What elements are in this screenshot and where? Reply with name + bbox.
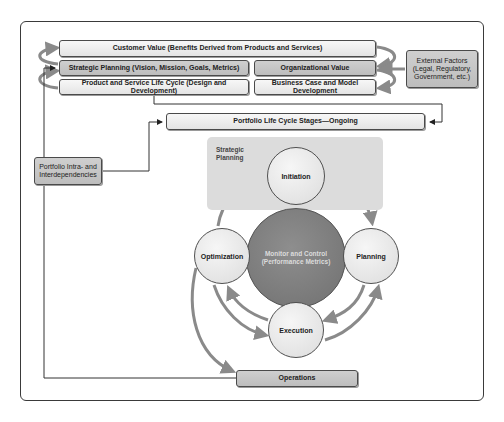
portfolio-dependencies-line1: Portfolio Intra- and	[39, 163, 97, 171]
external-factors-line3: Government, etc.)	[414, 73, 470, 81]
external-factors-line1: External Factors	[417, 57, 468, 65]
loop-arrow-left-top	[40, 48, 58, 64]
arrow-execution-to-planning	[325, 288, 378, 340]
external-factors-line2: (Legal, Regulatory,	[413, 65, 472, 73]
external-factors-box: External Factors (Legal, Regulatory, Gov…	[406, 50, 478, 88]
loop-arrow-left-bottom	[40, 71, 58, 88]
monitor-control-line1: Monitor and Control	[265, 250, 327, 258]
stage-initiation-circle: Initiation	[267, 147, 325, 205]
strategic-planning-box: Strategic Planning (Vision, Mission, Goa…	[59, 60, 249, 76]
organizational-value-box: Organizational Value	[254, 60, 376, 76]
customer-value-box: Customer Value (Benefits Derived from Pr…	[59, 40, 376, 57]
portfolio-lifecycle-box: Portfolio Life Cycle Stages—Ongoing	[166, 113, 425, 130]
arrow-optimization-to-execution	[214, 285, 265, 335]
stage-planning-circle: Planning	[343, 228, 399, 284]
loop-arrow-right-top	[377, 47, 395, 66]
monitor-control-line2: (Performance Metrics)	[262, 258, 331, 266]
portfolio-lifecycle-diagram: Customer Value (Benefits Derived from Pr…	[0, 0, 504, 422]
loop-arrow-right-bottom	[377, 70, 395, 88]
strategic-planning-label-line2: Planning	[216, 154, 244, 162]
business-case-box: Business Case and Model Development	[254, 79, 376, 95]
stage-optimization-circle: Optimization	[194, 228, 250, 284]
strategic-planning-label-line1: Strategic	[216, 146, 244, 154]
portfolio-dependencies-box: Portfolio Intra- and Interdependencies	[34, 157, 102, 185]
operations-box: Operations	[236, 370, 358, 387]
strategic-planning-region-label: Strategic Planning	[216, 146, 244, 162]
monitor-control-circle: Monitor and Control (Performance Metrics…	[246, 208, 346, 308]
dependencies-to-lifecycle-line	[102, 122, 162, 171]
portfolio-dependencies-line2: Interdependencies	[39, 171, 97, 179]
stage-execution-circle: Execution	[268, 302, 324, 358]
product-service-lifecycle-box: Product and Service Life Cycle (Design a…	[59, 79, 249, 95]
